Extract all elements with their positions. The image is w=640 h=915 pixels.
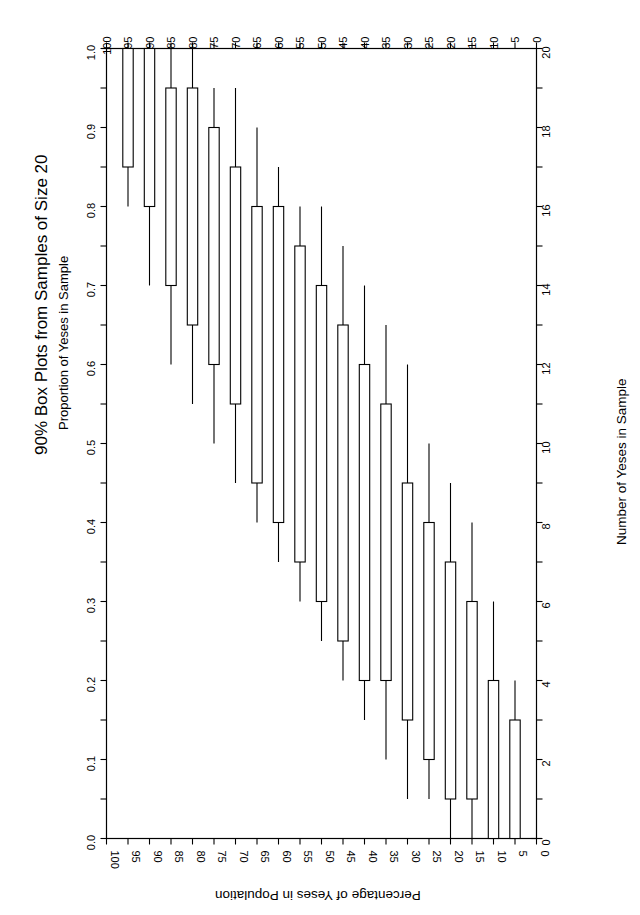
box-plot-item <box>166 49 176 365</box>
box-plot-item <box>295 207 305 602</box>
bottom-axis-tick-label: 40 <box>367 851 379 863</box>
right-axis-tick-label: 10 <box>540 441 552 453</box>
box-body <box>230 167 240 404</box>
right-axis-tick-label: 2 <box>540 760 552 766</box>
box-plot-item <box>467 523 477 839</box>
chart-title: 90% Box Plots from Samples of Size 20 <box>32 155 52 455</box>
bottom-axis-tick-label: 10 <box>496 851 508 863</box>
right-axis-tick-label: 16 <box>540 204 552 216</box>
right-axis-title: Number of Yeses in Sample <box>614 378 629 545</box>
box-plot-item <box>123 49 133 207</box>
box-body <box>510 720 520 839</box>
box-plot-item <box>209 88 219 444</box>
bottom-axis-tick-label: 30 <box>410 851 422 863</box>
right-axis-tick-label: 18 <box>540 125 552 137</box>
box-body <box>144 49 154 207</box>
box-body <box>123 49 133 168</box>
right-axis-tick-label: 8 <box>540 523 552 529</box>
top-axis-tick-label: 10 <box>488 37 500 49</box>
box-plot-item <box>402 365 412 800</box>
left-axis-tick-label: 0.2 <box>85 677 97 692</box>
box-body <box>273 207 283 523</box>
right-axis-tick-label: 14 <box>540 283 552 295</box>
top-axis-tick-label: 50 <box>316 37 328 49</box>
box-body <box>209 128 219 365</box>
top-axis-tick-label: 20 <box>445 37 457 49</box>
bottom-axis-tick-label: 50 <box>324 851 336 863</box>
top-axis-tick-label: 30 <box>402 37 414 49</box>
left-axis-tick-label: 0.1 <box>85 756 97 771</box>
bottom-axis-tick-label: 100 <box>109 851 121 869</box>
top-axis-tick-label: 45 <box>337 37 349 49</box>
bottom-axis-tick-label: 0 <box>539 851 551 857</box>
top-axis-tick-label: 40 <box>359 37 371 49</box>
box-plot-item <box>381 325 391 760</box>
box-body <box>359 365 369 681</box>
top-axis-tick-label: 5 <box>509 37 521 43</box>
box-body <box>187 88 197 325</box>
top-axis-tick-label: 75 <box>208 37 220 49</box>
bottom-axis-tick-label: 90 <box>152 851 164 863</box>
top-axis-tick-label: 90 <box>144 37 156 49</box>
box-plot-item <box>338 246 348 681</box>
bottom-axis-tick-label: 55 <box>302 851 314 863</box>
bottom-axis-tick-label: 25 <box>431 851 443 863</box>
bottom-axis-tick-label: 70 <box>238 851 250 863</box>
box-body <box>467 602 477 800</box>
bottom-axis-tick-label: 20 <box>453 851 465 863</box>
bottom-axis-tick-label: 95 <box>130 851 142 863</box>
box-plot-item <box>316 207 326 642</box>
left-axis-tick-label: 0.5 <box>85 440 97 455</box>
box-plot-item <box>230 88 240 483</box>
top-axis-tick-label: 70 <box>230 37 242 49</box>
box-plot-item <box>273 167 283 562</box>
top-axis-tick-label: 100 <box>101 37 113 55</box>
top-axis-tick-label: 55 <box>294 37 306 49</box>
box-body <box>445 562 455 799</box>
box-body <box>402 483 412 720</box>
top-axis-tick-label: 0 <box>531 37 543 43</box>
box-plot-item <box>144 49 154 286</box>
bottom-axis-tick-label: 75 <box>216 851 228 863</box>
left-axis-tick-label: 0.6 <box>85 361 97 376</box>
box-plot-item <box>510 681 520 839</box>
boxplot-figure: 90% Box Plots from Samples of Size 20 Pr… <box>0 0 640 915</box>
left-axis-tick-label: 0.4 <box>85 519 97 534</box>
box-plot-item <box>252 128 262 523</box>
plot-canvas: 1001009595909085858080757570706565606055… <box>0 0 640 915</box>
right-axis-tick-label: 12 <box>540 362 552 374</box>
bottom-axis-tick-label: 60 <box>281 851 293 863</box>
box-plot-item <box>488 602 498 839</box>
bottom-axis-tick-label: 45 <box>345 851 357 863</box>
right-axis-tick-label: 0 <box>540 839 552 845</box>
top-axis-tick-label: 60 <box>273 37 285 49</box>
box-body <box>381 404 391 681</box>
box-body <box>166 88 176 286</box>
left-axis-tick-label: 0.0 <box>85 835 97 850</box>
box-body <box>488 681 498 839</box>
bottom-axis-tick-label: 85 <box>173 851 185 863</box>
box-plot-item <box>424 444 434 800</box>
left-axis-tick-label: 0.9 <box>85 124 97 139</box>
right-axis-tick-label: 4 <box>540 681 552 687</box>
chart-subtitle: Proportion of Yeses in Sample <box>56 256 71 430</box>
box-body <box>424 523 434 760</box>
left-axis-tick-label: 0.7 <box>85 282 97 297</box>
box-body <box>295 246 305 562</box>
box-plot-item <box>187 49 197 405</box>
left-axis-tick-label: 1.0 <box>85 45 97 60</box>
top-axis-tick-label: 35 <box>380 37 392 49</box>
top-axis-tick-label: 85 <box>165 37 177 49</box>
top-axis-tick-label: 65 <box>251 37 263 49</box>
box-body <box>316 286 326 602</box>
left-axis-tick-label: 0.3 <box>85 598 97 613</box>
right-axis-tick-label: 20 <box>540 46 552 58</box>
top-axis-tick-label: 25 <box>423 37 435 49</box>
right-axis-tick-label: 6 <box>540 602 552 608</box>
bottom-axis-title: Percentage of Yeses in Population <box>215 888 421 903</box>
bottom-axis-tick-label: 65 <box>259 851 271 863</box>
left-axis-tick-label: 0.8 <box>85 203 97 218</box>
box-plot-item <box>445 483 455 839</box>
box-body <box>252 207 262 484</box>
bottom-axis-tick-label: 15 <box>474 851 486 863</box>
